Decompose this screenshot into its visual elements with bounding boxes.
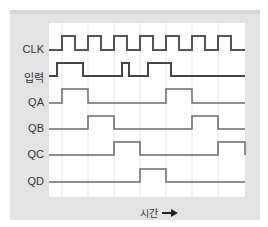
right-arrow-icon: [162, 209, 178, 217]
signal-label-qd: QD: [8, 175, 44, 187]
signal-label-clk: CLK: [8, 43, 44, 55]
time-axis-text: 시간: [140, 205, 158, 220]
timing-diagram: [0, 0, 268, 227]
signal-label-qa: QA: [8, 96, 44, 108]
signal-label-qb: QB: [8, 122, 44, 134]
time-axis-label: 시간: [140, 205, 178, 220]
signal-label-input: 입력: [8, 69, 44, 85]
signal-label-qc: QC: [8, 148, 44, 160]
